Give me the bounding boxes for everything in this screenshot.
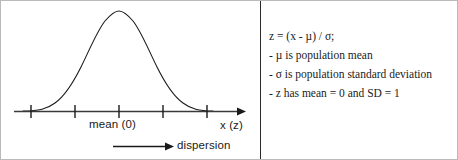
normal-curve-chart <box>1 1 260 160</box>
dispersion-arrowhead-icon <box>165 143 174 151</box>
formula-line-sigma-description: - σ is population standard deviation <box>269 65 458 84</box>
dispersion-label: dispersion <box>177 139 230 151</box>
mean-axis-label: mean (0) <box>89 118 136 130</box>
plot-panel: mean (0) x (z) dispersion <box>1 1 260 160</box>
figure-container: mean (0) x (z) dispersion z = (x - µ) / … <box>0 0 458 160</box>
x-axis-arrowhead-icon <box>237 108 246 116</box>
bell-curve-path <box>23 11 213 111</box>
formula-line-z-properties: - z has mean = 0 and SD = 1 <box>269 84 458 103</box>
formula-line-z-definition: z = (x - µ) / σ; <box>269 27 458 46</box>
formula-panel: z = (x - µ) / σ; - µ is population mean … <box>261 1 458 160</box>
x-axis-label: x (z) <box>220 119 243 131</box>
formula-line-mu-description: - µ is population mean <box>269 46 458 65</box>
